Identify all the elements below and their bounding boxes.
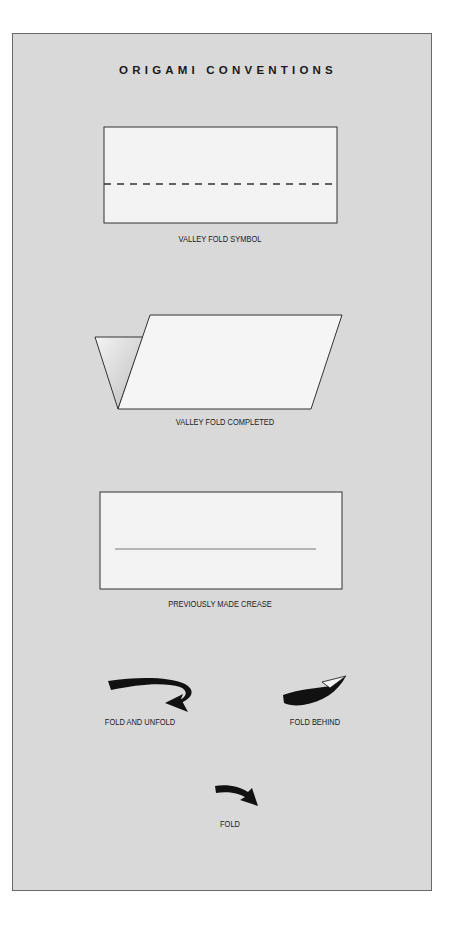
fold-behind-arrow-icon <box>283 676 346 705</box>
valley-fold-symbol-figure <box>104 127 337 223</box>
fold-and-unfold-arrow-icon <box>108 678 192 712</box>
caption-previously-made-crease: PREVIOUSLY MADE CREASE <box>132 599 308 609</box>
previously-made-crease-figure <box>100 492 342 589</box>
caption-fold: FOLD <box>204 819 257 829</box>
caption-fold-behind: FOLD BEHIND <box>271 717 359 727</box>
valley-fold-completed-figure <box>95 315 342 409</box>
diagram-canvas <box>0 0 456 937</box>
front-flap <box>118 315 342 409</box>
caption-valley-fold-completed: VALLEY FOLD COMPLETED <box>137 417 313 427</box>
caption-valley-fold-symbol: VALLEY FOLD SYMBOL <box>132 234 308 244</box>
page-title: ORIGAMI CONVENTIONS <box>0 64 456 76</box>
fold-arrow-icon <box>215 785 258 806</box>
caption-fold-and-unfold: FOLD AND UNFOLD <box>96 717 184 727</box>
